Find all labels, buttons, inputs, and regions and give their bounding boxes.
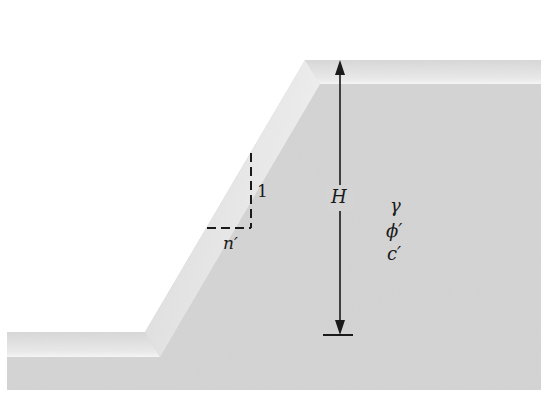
- soil-mass: [7, 60, 541, 390]
- height-label: H: [330, 186, 347, 207]
- cohesion-symbol: c′: [387, 243, 401, 264]
- unit-weight-symbol: γ: [390, 195, 401, 216]
- rise-label: 1: [257, 181, 268, 201]
- run-label: n′: [223, 233, 238, 253]
- slope-diagram: 1 n′ H γ ϕ′ c′: [0, 0, 547, 395]
- friction-angle-symbol: ϕ′: [386, 220, 402, 241]
